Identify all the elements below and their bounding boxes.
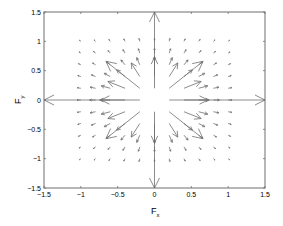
svg-text:Fy: Fy [13, 96, 25, 105]
x-tick-label: −1.5 [37, 191, 51, 198]
y-axis-label: Fy [13, 96, 25, 105]
x-axis-label: Fx [151, 206, 160, 218]
y-tick-label: 0.5 [31, 67, 41, 74]
x-tick-label: −1 [77, 191, 85, 198]
y-tick-label: 0 [37, 97, 41, 104]
x-tick-label: 0.5 [186, 191, 196, 198]
x-tick-label: 1 [226, 191, 230, 198]
y-tick-label: −1 [33, 155, 41, 162]
y-tick-label: −0.5 [27, 126, 41, 133]
y-tick-label: −1.5 [27, 185, 41, 192]
x-tick-label: −0.5 [111, 191, 125, 198]
vector-arrow [154, 38, 155, 41]
quiver-chart: −1.5−1−0.500.511.5 −1.5−1−0.500.511.5 Fx… [0, 0, 283, 226]
x-tick-label: 0 [153, 191, 157, 198]
x-tick-label: 1.5 [260, 191, 270, 198]
y-tick-label: 1.5 [31, 9, 41, 16]
y-tick-label: 1 [37, 38, 41, 45]
